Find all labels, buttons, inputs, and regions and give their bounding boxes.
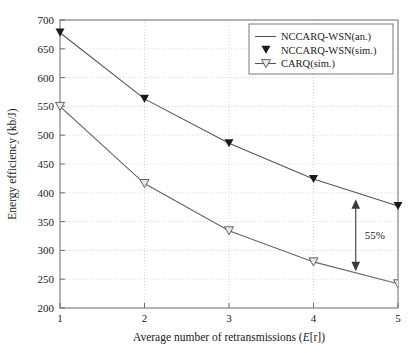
x-tick-label: 4	[311, 312, 317, 324]
y-tick-label: 600	[38, 72, 55, 84]
y-tick-label: 300	[38, 244, 55, 256]
x-tick-label: 5	[395, 312, 401, 324]
legend-label: NCCARQ-WSN(an.)	[281, 31, 372, 43]
x-tick-label: 3	[226, 312, 232, 324]
y-tick-label: 400	[38, 187, 55, 199]
y-tick-label: 550	[38, 100, 55, 112]
legend-label: CARQ(sim.)	[281, 58, 335, 70]
y-tick-label: 650	[38, 43, 55, 55]
x-axis-title-text: Average number of retransmissions	[133, 331, 297, 344]
x-tick-label: 2	[142, 312, 148, 324]
y-tick-label: 450	[38, 158, 55, 170]
y-tick-label: 350	[38, 216, 55, 228]
legend: NCCARQ-WSN(an.) NCCARQ-WSN(sim.) CARQ(si…	[249, 24, 393, 74]
y-axis-title: Energy efficiency (kb/J)	[6, 108, 19, 220]
y-tick-label: 500	[38, 129, 55, 141]
x-tick-label: 1	[57, 312, 63, 324]
legend-label: NCCARQ-WSN(sim.)	[281, 45, 377, 57]
annotation-label: 55%	[365, 229, 385, 241]
x-axis-title-symbol-rest: [r])	[310, 331, 325, 344]
energy-efficiency-line-chart: 200 250 300 350 400 450 500 550 600 650 …	[0, 0, 420, 353]
y-tick-label: 200	[38, 302, 55, 314]
x-axis-title: Average number of retransmissions (E[r])	[133, 331, 325, 344]
y-tick-label: 700	[38, 14, 55, 26]
y-tick-label: 250	[38, 273, 55, 285]
chart-figure: 200 250 300 350 400 450 500 550 600 650 …	[0, 0, 420, 353]
x-axis-title-symbol: E	[302, 331, 310, 343]
